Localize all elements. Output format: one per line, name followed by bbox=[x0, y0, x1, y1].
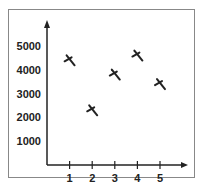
scatter-plot: 1000200030004000500012345 bbox=[0, 0, 203, 188]
chart: 1000200030004000500012345 bbox=[0, 0, 203, 188]
y-tick-label: 5000 bbox=[17, 40, 41, 52]
x-tick-label: 4 bbox=[134, 172, 141, 184]
y-tick-label: 2000 bbox=[17, 111, 41, 123]
y-axis-arrow-icon bbox=[44, 20, 50, 28]
data-point-marker bbox=[155, 79, 165, 89]
y-tick-label: 3000 bbox=[17, 88, 41, 100]
data-point-marker bbox=[65, 55, 75, 65]
x-tick-label: 5 bbox=[157, 172, 163, 184]
y-tick-label: 1000 bbox=[17, 135, 41, 147]
data-point-marker bbox=[87, 105, 97, 115]
x-axis-arrow-icon bbox=[181, 162, 188, 168]
x-tick-label: 1 bbox=[67, 172, 73, 184]
data-point-marker bbox=[132, 51, 142, 61]
data-point-marker bbox=[110, 70, 120, 80]
x-tick-label: 2 bbox=[89, 172, 95, 184]
x-tick-label: 3 bbox=[112, 172, 118, 184]
y-tick-label: 4000 bbox=[17, 64, 41, 76]
